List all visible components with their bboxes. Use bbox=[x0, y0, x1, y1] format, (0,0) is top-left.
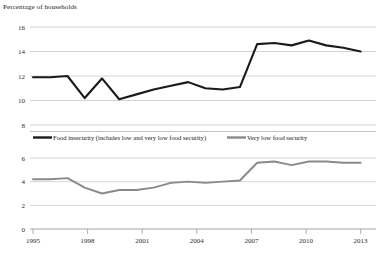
ytick-label-6: 6 bbox=[22, 155, 26, 163]
series-line-food-insecurity bbox=[33, 40, 361, 99]
xtick-label-1995: 1995 bbox=[26, 237, 41, 245]
ytick-label-14: 14 bbox=[18, 48, 26, 56]
xtick-label-1998: 1998 bbox=[81, 237, 96, 245]
legend-label-food-insecurity: Food insecurity (includes low and very l… bbox=[53, 134, 206, 142]
bottom-panel-ytick-labels: 6 4 2 0 bbox=[22, 155, 26, 234]
ytick-label-12: 12 bbox=[18, 73, 26, 81]
x-axis-ticks bbox=[33, 229, 361, 234]
xtick-label-2007: 2007 bbox=[244, 237, 259, 245]
xtick-label-2004: 2004 bbox=[190, 237, 205, 245]
xtick-label-2010: 2010 bbox=[299, 237, 314, 245]
ytick-label-4: 4 bbox=[22, 178, 26, 186]
top-panel-ytick-labels: 16 14 12 10 8 bbox=[18, 24, 26, 130]
ytick-label-8: 8 bbox=[22, 122, 26, 130]
chart-container: Percentage of households 16 14 12 10 8 F… bbox=[0, 0, 382, 256]
xtick-label-2013: 2013 bbox=[354, 237, 369, 245]
ytick-label-0: 0 bbox=[22, 226, 26, 234]
bottom-panel-gridlines bbox=[30, 158, 376, 229]
legend: Food insecurity (includes low and very l… bbox=[30, 132, 376, 143]
ytick-label-2: 2 bbox=[22, 202, 26, 210]
chart-svg: 16 14 12 10 8 Food insecurity (includes … bbox=[0, 0, 382, 256]
ytick-label-16: 16 bbox=[18, 24, 26, 32]
legend-label-very-low-food-security: Very low food security bbox=[247, 134, 308, 141]
top-panel-gridlines bbox=[30, 27, 376, 125]
x-axis-tick-labels: 1995 1998 2001 2004 2007 2010 2013 bbox=[26, 237, 368, 245]
ytick-label-10: 10 bbox=[18, 97, 26, 105]
xtick-label-2001: 2001 bbox=[135, 237, 150, 245]
series-line-very-low-food-security bbox=[33, 162, 361, 194]
